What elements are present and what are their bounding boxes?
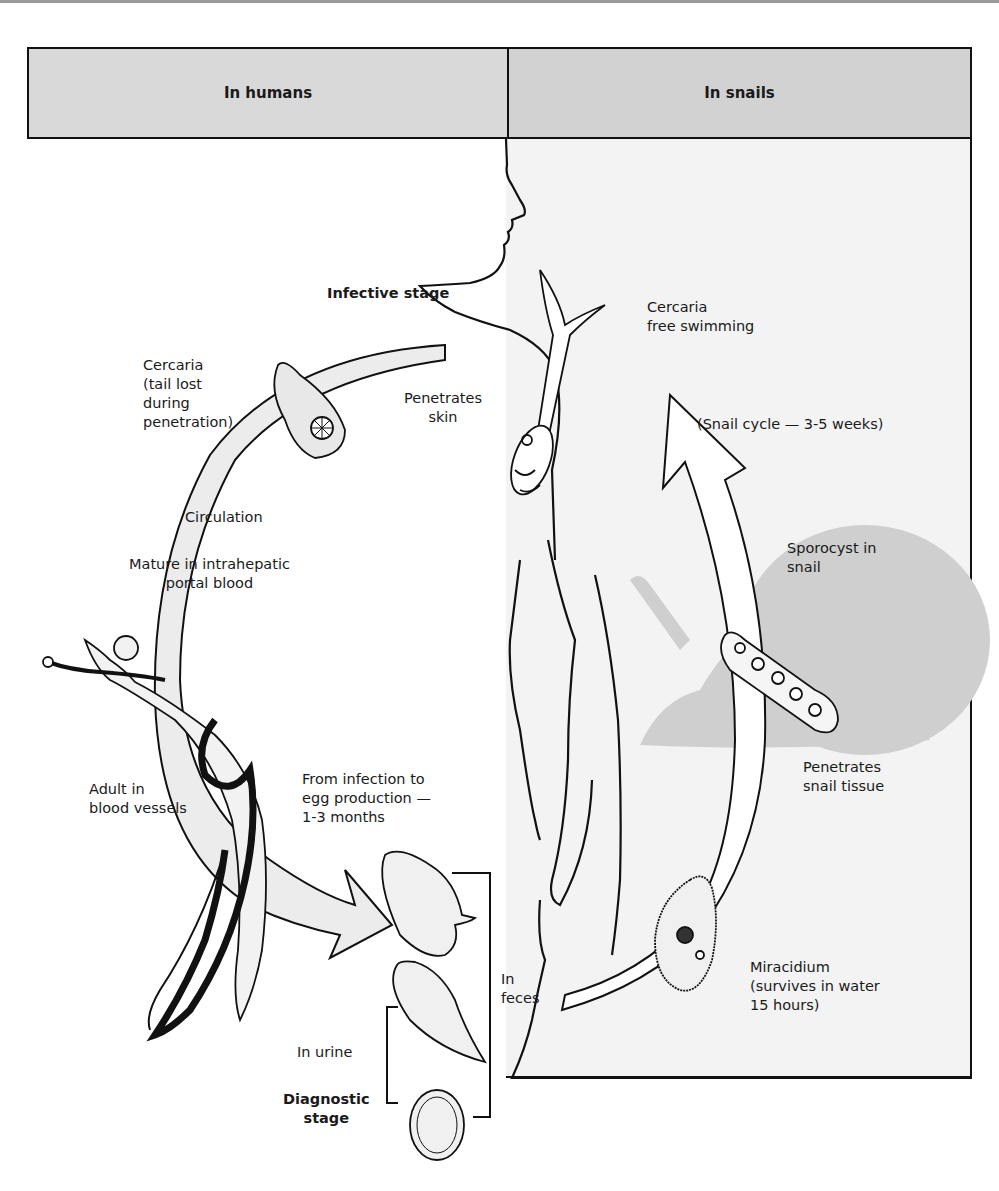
label-circulation: Circulation — [185, 508, 263, 527]
label-infective-stage: Infective stage — [327, 284, 449, 303]
label-cercaria-free-swimming: Cercaria free swimming — [647, 298, 754, 336]
label-sporocyst: Sporocyst in snail — [787, 539, 876, 577]
label-adult-blood-vessels: Adult in blood vessels — [89, 780, 187, 818]
eggs-drawing — [382, 852, 485, 1160]
label-mature-portal-blood: Mature in intrahepatic portal blood — [129, 555, 290, 593]
label-in-urine: In urine — [297, 1043, 352, 1062]
label-penetrates-skin: Penetrates skin — [404, 389, 482, 427]
label-infection-to-egg: From infection to egg production — 1-3 m… — [302, 770, 431, 827]
label-cercaria-tail-lost: Cercaria (tail lost during penetration) — [143, 356, 233, 432]
label-snail-cycle: (Snail cycle — 3-5 weeks) — [697, 415, 883, 434]
label-miracidium: Miracidium (survives in water 15 hours) — [750, 958, 880, 1015]
label-penetrates-snail-tissue: Penetrates snail tissue — [803, 758, 884, 796]
label-diagnostic-stage: Diagnostic stage — [283, 1090, 370, 1128]
miracidium-drawing — [655, 876, 716, 990]
label-in-feces: In feces — [501, 970, 539, 1008]
